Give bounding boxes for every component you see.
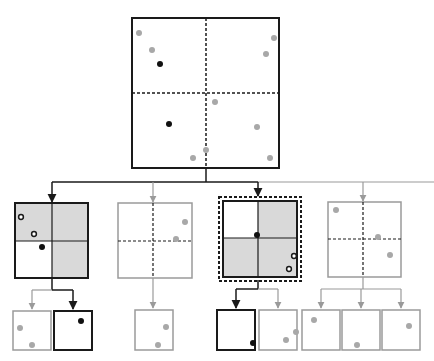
leaf-box — [342, 310, 380, 350]
leaf-a — [13, 311, 51, 350]
leaf-box — [217, 310, 255, 350]
data-point-light — [29, 342, 35, 348]
data-point-light — [311, 317, 317, 323]
data-point-dark — [39, 244, 45, 250]
data-point-light — [293, 329, 299, 335]
leaf-box — [302, 310, 340, 350]
data-point-light — [354, 342, 360, 348]
diagram-canvas — [0, 0, 434, 361]
leaf-box — [135, 310, 173, 350]
data-point-light — [203, 147, 209, 153]
data-point-light — [190, 155, 196, 161]
leaf-box — [54, 311, 92, 350]
data-point-open — [292, 254, 297, 259]
data-point-light — [149, 47, 155, 53]
data-point-light — [173, 236, 179, 242]
data-point-light — [17, 325, 23, 331]
leaf-box — [382, 310, 420, 350]
leaf-box — [259, 310, 297, 350]
leaf-f — [302, 310, 340, 350]
data-point-open — [32, 232, 37, 237]
data-point-light — [263, 51, 269, 57]
leaf-h — [382, 310, 420, 350]
data-point-dark — [250, 340, 256, 346]
shaded-quadrant — [52, 203, 88, 241]
leaf-b — [54, 311, 92, 350]
leaf-g — [342, 310, 380, 350]
shaded-quadrant — [258, 201, 297, 238]
data-point-open — [19, 215, 24, 220]
quadtree-diagram — [0, 0, 434, 361]
data-point-light — [387, 252, 393, 258]
data-point-light — [155, 342, 161, 348]
data-point-dark — [166, 121, 172, 127]
child-1 — [15, 203, 88, 278]
child-2 — [118, 203, 192, 278]
data-point-light — [375, 234, 381, 240]
data-point-open — [287, 267, 292, 272]
data-point-light — [136, 30, 142, 36]
data-point-light — [163, 324, 169, 330]
data-point-light — [406, 323, 412, 329]
data-point-light — [267, 155, 273, 161]
root-node — [132, 18, 279, 168]
data-point-light — [212, 99, 218, 105]
child-3 — [219, 197, 301, 281]
data-point-light — [333, 207, 339, 213]
tree-nodes — [13, 18, 420, 350]
leaf-e — [259, 310, 299, 350]
child-4 — [328, 202, 401, 277]
data-point-light — [271, 35, 277, 41]
leaf-d — [217, 310, 256, 350]
data-point-dark — [78, 318, 84, 324]
leaf-c — [135, 310, 173, 350]
data-point-dark — [254, 232, 260, 238]
data-point-light — [254, 124, 260, 130]
data-point-light — [182, 219, 188, 225]
shaded-quadrant — [52, 241, 88, 278]
data-point-dark — [157, 61, 163, 67]
data-point-light — [283, 337, 289, 343]
shaded-quadrant — [223, 238, 258, 277]
